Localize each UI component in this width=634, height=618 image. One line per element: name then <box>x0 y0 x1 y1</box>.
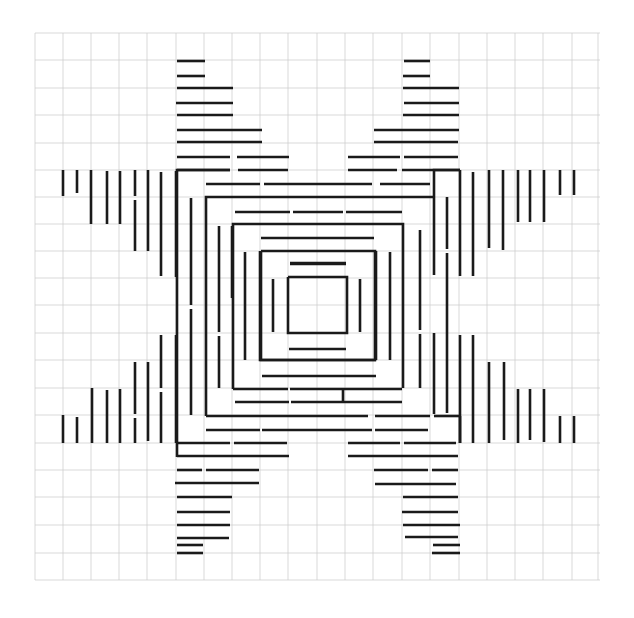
drawing-canvas <box>0 0 634 618</box>
